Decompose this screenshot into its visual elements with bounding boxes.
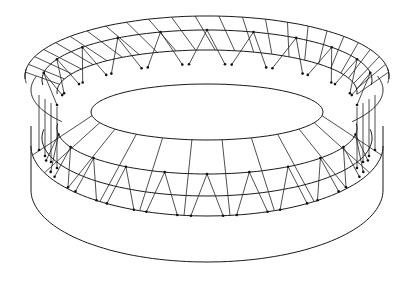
strut-left: [44, 73, 57, 105]
strut-node: [337, 190, 340, 193]
stadium-wireframe-svg: [0, 0, 415, 282]
strut-node: [362, 161, 365, 164]
strut-node: [362, 171, 365, 174]
roof-radial-rib: [331, 36, 344, 68]
strut-node: [145, 210, 148, 213]
strut-node: [110, 72, 113, 75]
strut-node: [368, 155, 371, 158]
roof-radial-rib: [106, 26, 139, 54]
strut-node: [224, 63, 227, 66]
strut-node: [287, 165, 290, 168]
strut-node: [50, 161, 53, 164]
strut-node: [354, 133, 357, 136]
strut-node: [306, 202, 309, 205]
roof-left-curl: [25, 69, 26, 83]
seating-ring-inner: [57, 123, 357, 174]
strut-right: [82, 47, 106, 75]
roof-radial-rib: [195, 16, 215, 50]
strut-node: [181, 63, 184, 66]
roof-ring: [25, 16, 389, 122]
strut-node: [330, 81, 333, 84]
strut-node: [230, 63, 233, 66]
roof-radial-rib: [357, 64, 386, 89]
strut-node: [222, 214, 225, 217]
roof-radial-rib: [354, 57, 380, 84]
strut-node: [351, 94, 354, 97]
strut-node: [74, 190, 77, 193]
strut-left: [207, 174, 223, 216]
strut-node: [125, 165, 128, 168]
strut-right: [343, 147, 346, 187]
strut-node: [56, 167, 59, 170]
strut-left: [68, 147, 71, 187]
strut-left: [165, 172, 178, 215]
strut-node: [163, 171, 166, 174]
strut-node: [147, 66, 150, 69]
strut-node: [374, 149, 377, 152]
strut-node: [176, 214, 179, 217]
strut-node: [334, 83, 337, 86]
strut-node: [301, 72, 304, 75]
strut-node: [349, 92, 352, 95]
roof-right-curl: [388, 69, 389, 83]
seating-radial-rib: [251, 138, 274, 211]
roof-radial-rib: [172, 17, 196, 50]
strut-node: [45, 159, 48, 162]
strut-left: [232, 32, 254, 65]
strut-node: [342, 146, 345, 149]
strut-node: [206, 173, 209, 176]
strut-node: [57, 133, 60, 136]
roof-radial-rib: [305, 26, 308, 60]
strut-node: [235, 214, 238, 217]
strut-right: [207, 30, 225, 64]
strut-node: [316, 199, 319, 202]
base-top-rim: [31, 146, 383, 216]
stadium-wireframe-figure: [0, 0, 415, 282]
strut-node: [44, 155, 47, 158]
roof-ring-3: [57, 50, 357, 94]
base-cylinder: [31, 126, 383, 262]
strut-node: [78, 83, 81, 86]
strut-node: [56, 104, 59, 107]
strut-node: [188, 63, 191, 66]
strut-right: [296, 38, 302, 74]
seating-radial-rib: [44, 123, 99, 173]
strut-node: [95, 199, 98, 202]
roof-radial-rib: [319, 31, 327, 64]
strut-node: [271, 67, 274, 70]
strut-node: [140, 67, 143, 70]
strut-node: [49, 171, 52, 174]
strut-node: [67, 186, 70, 189]
strut-node: [358, 175, 361, 178]
roof-radial-rib: [149, 19, 177, 51]
support-struts: [38, 29, 377, 217]
strut-node: [356, 167, 359, 170]
strut-node: [356, 104, 359, 107]
strut-node: [53, 175, 56, 178]
seating-radial-rib: [33, 116, 93, 155]
field-opening-edge: [91, 84, 323, 140]
strut-right: [191, 174, 207, 216]
strut-right: [254, 32, 267, 67]
strut-node: [61, 94, 64, 97]
strut-node: [92, 157, 95, 160]
strut-left: [272, 38, 296, 68]
seating-bowl: [33, 84, 382, 215]
strut-node: [81, 81, 84, 84]
roof-radial-rib: [219, 16, 235, 51]
strut-left: [189, 30, 207, 64]
strut-node: [319, 157, 322, 160]
roof-radial-rib: [266, 19, 272, 54]
seating-radial-rib: [222, 140, 230, 216]
strut-node: [266, 210, 269, 213]
strut-node: [38, 149, 41, 152]
seating-radial-rib: [322, 116, 382, 155]
strut-node: [106, 202, 109, 205]
strut-node: [367, 159, 370, 162]
strut-node: [63, 92, 66, 95]
seating-radial-rib: [184, 140, 192, 216]
strut-left: [94, 158, 97, 200]
strut-node: [307, 74, 310, 77]
roof-radial-rib: [70, 36, 107, 60]
strut-node: [345, 186, 348, 189]
